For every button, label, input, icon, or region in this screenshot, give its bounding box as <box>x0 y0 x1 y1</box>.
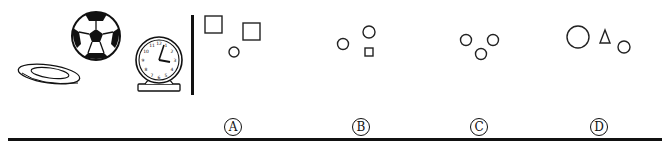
svg-text:9: 9 <box>142 58 145 63</box>
option-d-figure <box>567 26 630 53</box>
triangle-shape <box>600 30 610 43</box>
svg-text:7: 7 <box>151 73 154 78</box>
svg-text:4: 4 <box>171 67 174 72</box>
circle-shape <box>338 39 349 50</box>
square-shape <box>205 16 222 33</box>
circle-shape <box>229 47 239 57</box>
svg-text:11: 11 <box>149 43 155 48</box>
svg-text:12: 12 <box>156 41 162 46</box>
square-shape <box>365 48 373 56</box>
plate-icon <box>17 61 81 87</box>
circle-shape <box>618 41 630 53</box>
svg-text:1: 1 <box>165 43 168 48</box>
svg-text:5: 5 <box>165 73 168 78</box>
circle-shape <box>488 35 499 46</box>
circle-shape <box>363 26 375 38</box>
svg-text:3: 3 <box>174 58 177 63</box>
option-b-figure <box>338 26 376 56</box>
svg-text:2: 2 <box>171 49 174 54</box>
option-a-figure <box>205 16 260 57</box>
square-shape <box>243 23 260 40</box>
svg-text:6: 6 <box>158 75 161 80</box>
option-c-figure <box>461 35 499 60</box>
circle-shape <box>567 26 589 48</box>
svg-text:10: 10 <box>143 49 149 54</box>
baseline-rule <box>8 138 662 141</box>
soccer-ball-icon <box>72 12 120 60</box>
option-c-label[interactable]: C <box>470 118 488 136</box>
divider-line <box>191 15 194 95</box>
option-a-label[interactable]: A <box>224 118 242 136</box>
clock-icon: 12 1 2 3 4 5 6 7 8 9 10 11 <box>136 37 182 91</box>
option-b-label[interactable]: B <box>352 118 370 136</box>
svg-text:8: 8 <box>145 67 148 72</box>
circle-shape <box>461 35 472 46</box>
option-d-label[interactable]: D <box>590 118 608 136</box>
circle-shape <box>476 49 487 60</box>
